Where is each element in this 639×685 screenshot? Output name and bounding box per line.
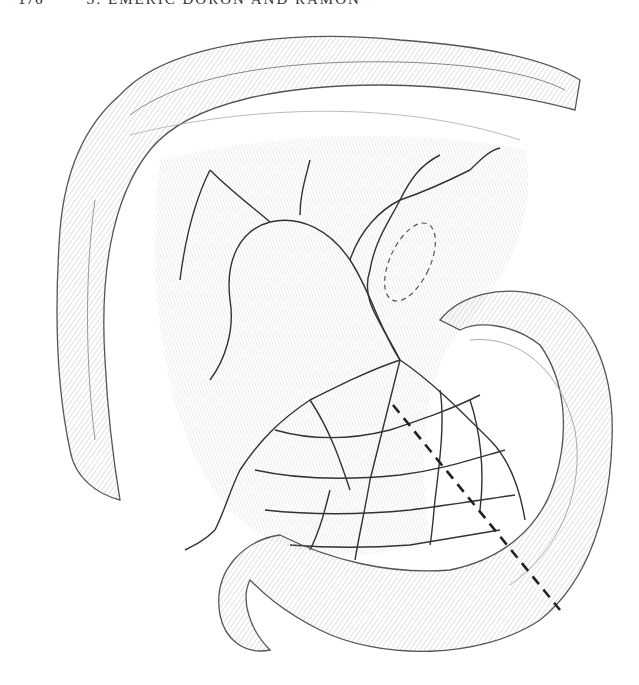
anatomical-illustration — [0, 0, 639, 685]
mesentery — [155, 136, 528, 555]
